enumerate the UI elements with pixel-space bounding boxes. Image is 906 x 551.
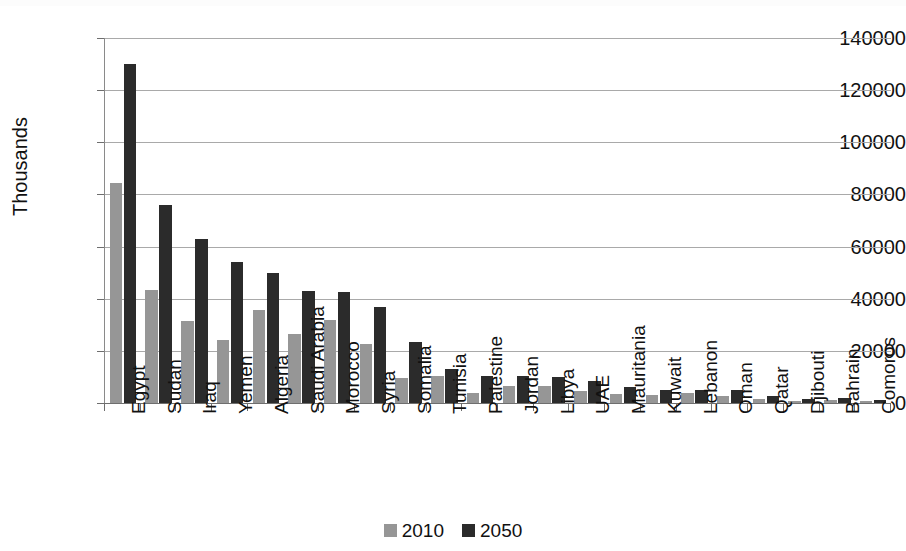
x-tick-label: Libya xyxy=(558,369,577,414)
x-tick-label: Oman xyxy=(736,362,755,414)
y-tick-mark xyxy=(97,351,104,352)
x-tick-label: Jordan xyxy=(522,356,541,414)
x-tick-label: Mauritania xyxy=(629,325,648,414)
x-tick-label: Morocco xyxy=(343,341,362,414)
bar xyxy=(195,239,208,403)
y-tick-mark xyxy=(97,247,104,248)
bar-group xyxy=(212,38,248,403)
x-tick-label: Iraq xyxy=(200,381,219,414)
x-tick-label: Qatar xyxy=(772,366,791,414)
y-tick-mark xyxy=(97,194,104,195)
x-tick-label: Comoros xyxy=(879,337,898,414)
legend-entry[interactable]: 2010 xyxy=(384,521,444,540)
x-tick-label: UAE xyxy=(593,375,612,414)
x-tick-label: Syria xyxy=(379,371,398,414)
y-tick-mark xyxy=(97,403,104,404)
bar-group xyxy=(534,38,570,403)
x-tick-mark xyxy=(104,403,105,411)
bar-group xyxy=(141,38,177,403)
chart-page: Thousands 020000400006000080000100000120… xyxy=(0,0,906,551)
legend-label: 2010 xyxy=(402,521,444,540)
x-tick-label: Algeria xyxy=(272,355,291,414)
scan-artifact xyxy=(0,0,906,6)
legend-swatch-icon xyxy=(384,524,397,537)
legend-entry[interactable]: 2050 xyxy=(462,521,522,540)
x-tick-label: Kuwait xyxy=(665,357,684,414)
y-tick-mark xyxy=(97,38,104,39)
x-tick-label: Sudan xyxy=(165,359,184,414)
x-tick-label: Bahrain xyxy=(843,349,862,415)
legend-swatch-icon xyxy=(462,524,475,537)
bar-group xyxy=(569,38,605,403)
x-tick-label: Palestine xyxy=(486,336,505,414)
x-tick-label: Saudi Arabia xyxy=(308,306,327,414)
y-tick-mark xyxy=(97,142,104,143)
y-axis-title: Thousands xyxy=(9,57,32,277)
x-tick-label: Djibouti xyxy=(808,351,827,414)
y-tick-mark xyxy=(97,90,104,91)
bar xyxy=(124,64,137,403)
bar xyxy=(110,183,123,403)
x-tick-label: Egypt xyxy=(129,365,148,414)
bar-group xyxy=(105,38,141,403)
bar-group xyxy=(748,38,784,403)
x-tick-label: Lebanon xyxy=(701,340,720,414)
legend-label: 2050 xyxy=(480,521,522,540)
y-tick-mark xyxy=(97,299,104,300)
bar-group xyxy=(248,38,284,403)
bar-group xyxy=(176,38,212,403)
chart-legend: 20102050 xyxy=(0,521,906,540)
bar-group xyxy=(784,38,820,403)
x-tick-label: Yemen xyxy=(236,356,255,414)
x-tick-label: Somalia xyxy=(415,345,434,414)
x-tick-label: Tunisia xyxy=(450,353,469,414)
